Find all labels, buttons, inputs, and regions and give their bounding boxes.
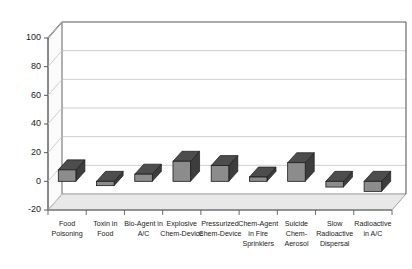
- x-axis-ticks: [48, 210, 392, 215]
- y-tick-label: -20: [28, 204, 41, 214]
- bar-front-face: [326, 181, 344, 187]
- x-axis-label: Food: [97, 230, 113, 238]
- x-axis-label: Chem-Device: [199, 230, 242, 238]
- y-tick-label: 100: [26, 32, 41, 42]
- x-axis-label: Radioactive: [354, 220, 391, 228]
- y-tick-label: 0: [36, 176, 41, 186]
- x-axis-label: Sprinklers: [242, 240, 274, 248]
- x-axis-label: Bio-Agent in: [124, 220, 163, 228]
- x-axis-label: Food: [59, 220, 75, 228]
- x-axis-labels: FoodPoisoningToxin inFoodBio-Agent inA/C…: [52, 220, 392, 248]
- y-tick-label: 20: [31, 147, 41, 157]
- x-axis-label: Pressurized: [201, 220, 239, 228]
- x-axis-label: Aerosol: [284, 240, 308, 248]
- x-axis-label: Chem-: [286, 230, 308, 238]
- x-axis-label: Radioactive: [316, 230, 353, 238]
- plot-floor: [48, 194, 406, 210]
- bar-front-face: [97, 181, 115, 185]
- x-axis-label: Explosive: [167, 220, 197, 228]
- x-axis-label: Suicide: [285, 220, 308, 228]
- x-axis-label: A/C: [138, 230, 150, 238]
- chart-canvas: 100806040200-20 FoodPoisoningToxin inFoo…: [0, 0, 412, 269]
- bar-front-face: [364, 181, 382, 191]
- bar-front-face: [135, 174, 153, 181]
- x-axis-label: in A/C: [363, 230, 382, 238]
- x-axis-label: Toxin in: [93, 220, 117, 228]
- y-tick-label: 40: [31, 118, 41, 128]
- y-tick-label: 80: [31, 61, 41, 71]
- bar-front-face: [211, 166, 229, 182]
- bar-front-face: [173, 161, 191, 181]
- x-axis-label: Dispersal: [320, 240, 350, 248]
- y-tick-label: 60: [31, 90, 41, 100]
- bar-chart-figure: 100806040200-20 FoodPoisoningToxin inFoo…: [0, 0, 412, 269]
- x-axis-label: Chem-Agent: [238, 220, 278, 228]
- bar-front-face: [288, 163, 306, 182]
- bar-front-face: [249, 177, 267, 181]
- bar-front-face: [58, 170, 76, 181]
- x-axis-label: Slow: [327, 220, 343, 228]
- x-axis-label: Poisoning: [52, 230, 83, 238]
- x-axis-label: in Fire: [248, 230, 268, 238]
- x-axis-label: Chem-Device: [160, 230, 203, 238]
